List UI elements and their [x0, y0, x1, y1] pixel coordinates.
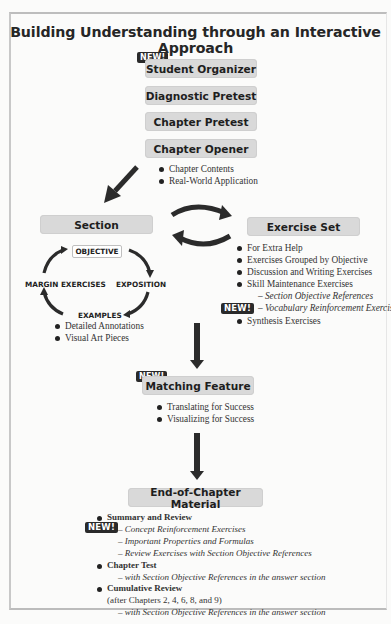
list-item: (after Chapters 2, 4, 6, 8, and 9)	[96, 595, 326, 607]
list-item: Cumulative Review	[96, 583, 326, 595]
list-item: – Review Exercises with Section Objectiv…	[96, 548, 326, 560]
list-item: Chapter Test	[96, 560, 326, 572]
list-item: – Important Properties and Formulas	[96, 536, 326, 548]
list-item: Summary and Review	[96, 512, 326, 524]
list-item: – Concept Reinforcement Exercises	[96, 524, 326, 536]
new-badge: NEW!	[85, 522, 118, 533]
list-item: – with Section Objective References in t…	[96, 607, 326, 619]
list-item: – with Section Objective References in t…	[96, 572, 326, 584]
end-of-chapter-bullets: Summary and Review – Concept Reinforceme…	[96, 512, 326, 619]
end-of-chapter-box: End-of-Chapter Material	[128, 488, 263, 507]
